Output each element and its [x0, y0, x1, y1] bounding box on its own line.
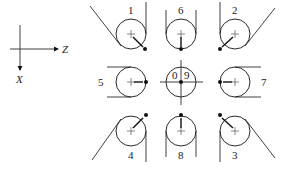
tool-tip-point: [144, 80, 148, 84]
position-label-3: 3: [232, 149, 238, 161]
direction-arrow: [133, 118, 143, 128]
position-label-8: 8: [178, 149, 184, 161]
tool-position-5: 5: [98, 67, 148, 97]
tool-tip-point: [179, 80, 183, 84]
tool-position-4: 4: [92, 113, 148, 162]
tool-position-2: 2: [218, 2, 275, 51]
tool-tip-point: [143, 47, 147, 51]
tool-tip-point: [218, 47, 222, 51]
position-label-5: 5: [98, 76, 104, 88]
direction-arrow: [133, 37, 143, 47]
position-label-9: 9: [184, 69, 190, 81]
tool-tip-point: [218, 113, 222, 117]
tool-nose-position-diagram: Z X 1 6 2 5: [0, 0, 290, 170]
tool-position-3: 3: [218, 113, 275, 162]
z-axis-label: Z: [62, 43, 69, 55]
tool-position-0-9: 0 9: [160, 60, 203, 105]
position-label-7: 7: [261, 76, 267, 88]
position-label-6: 6: [178, 4, 184, 16]
direction-arrow: [222, 37, 233, 47]
tool-edge-line: [245, 119, 275, 158]
tool-position-8: 8: [166, 113, 196, 161]
position-label-1: 1: [128, 4, 134, 16]
tool-tip-point: [179, 113, 183, 117]
coordinate-axes: Z X: [10, 25, 69, 85]
tool-edge-line: [245, 8, 275, 46]
direction-arrow: [222, 118, 233, 128]
tool-tip-point: [179, 47, 183, 51]
tool-position-7: 7: [218, 67, 267, 97]
tool-position-6: 6: [166, 4, 196, 51]
tool-tip-point: [218, 80, 222, 84]
tool-position-1: 1: [90, 2, 147, 51]
position-label-4: 4: [128, 149, 134, 161]
position-label-2: 2: [232, 4, 238, 16]
position-label-0: 0: [172, 69, 178, 81]
tool-tip-point: [144, 113, 148, 117]
tool-edge-line: [90, 6, 121, 46]
x-axis-label: X: [15, 73, 24, 85]
